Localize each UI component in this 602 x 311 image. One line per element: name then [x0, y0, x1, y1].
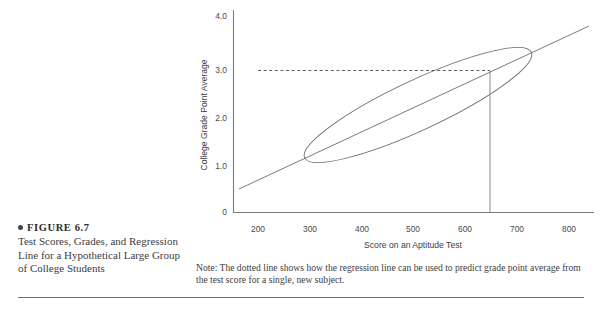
- figure-caption-text: Test Scores, Grades, and Regression Line…: [18, 235, 186, 276]
- x-tick-label-500: 500: [406, 224, 420, 234]
- x-tick-label-300: 300: [303, 224, 317, 234]
- figure-label-line: FIGURE 6.7: [18, 222, 186, 233]
- bullet-dot-icon: [18, 225, 23, 230]
- figure-note-text: Note: The dotted line shows how the regr…: [196, 262, 586, 287]
- y-tick-label-0: 0: [222, 207, 227, 217]
- y-tick-label-3: 3.0: [215, 65, 227, 75]
- y-axis-title: College Grade Point Average: [199, 59, 209, 170]
- data-cloud-ellipse: [294, 30, 542, 181]
- chart-plot-area: College Grade Point Average 4.0 3.0 2.0 …: [0, 0, 602, 255]
- bottom-divider: [18, 297, 584, 298]
- figure-number-label: FIGURE 6.7: [27, 222, 90, 233]
- regression-line: [239, 26, 589, 189]
- regression-scatter-chart: College Grade Point Average 4.0 3.0 2.0 …: [0, 0, 602, 255]
- x-tick-label-800: 800: [562, 224, 576, 234]
- x-tick-label-600: 600: [458, 224, 472, 234]
- y-tick-label-1: 1.0: [215, 161, 227, 171]
- figure-page: College Grade Point Average 4.0 3.0 2.0 …: [0, 0, 602, 311]
- x-tick-label-400: 400: [355, 224, 369, 234]
- x-tick-label-700: 700: [510, 224, 524, 234]
- x-axis-title: Score on an Aptitude Test: [364, 240, 462, 250]
- y-tick-label-4: 4.0: [215, 11, 227, 21]
- x-tick-label-200: 200: [251, 224, 265, 234]
- y-tick-label-2: 2.0: [215, 113, 227, 123]
- figure-caption-block: FIGURE 6.7 Test Scores, Grades, and Regr…: [18, 222, 186, 276]
